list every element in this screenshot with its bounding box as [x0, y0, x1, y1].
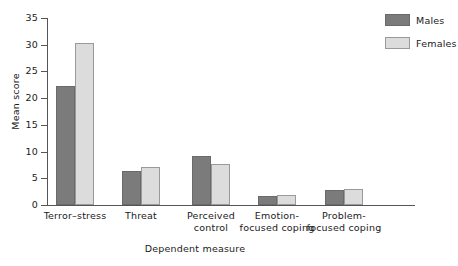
y-axis-tick-label: 5 — [0, 173, 38, 183]
legend-swatch-females-icon — [385, 37, 410, 49]
x-axis-category-label: Problem-focused coping — [299, 210, 389, 233]
bar-females — [141, 167, 160, 205]
bar-males — [122, 171, 141, 205]
y-axis-tick-label: 20 — [0, 93, 38, 103]
bar-females — [344, 189, 363, 205]
y-axis-tick-label: 15 — [0, 120, 38, 130]
legend-label-males: Males — [416, 15, 444, 26]
bar-males — [56, 86, 75, 205]
bar-males — [325, 190, 344, 205]
bar-females — [211, 164, 230, 205]
y-axis-tick-label: 0 — [0, 200, 38, 210]
plot-area — [47, 18, 415, 205]
legend-item-females: Females — [385, 37, 457, 49]
x-axis-title: Dependent measure — [120, 243, 270, 254]
y-axis-tick-label: 25 — [0, 66, 38, 76]
legend-label-females: Females — [416, 38, 457, 49]
legend-item-males: Males — [385, 14, 457, 26]
y-axis-tick-label: 30 — [0, 40, 38, 50]
legend-swatch-males-icon — [385, 14, 410, 26]
y-axis-tick — [41, 205, 47, 206]
y-axis-tick-label: 35 — [0, 13, 38, 23]
bar-males — [258, 196, 277, 205]
bar-males — [192, 156, 211, 205]
bar-chart-figure: Mean score 05101520253035 Terror–stressT… — [0, 0, 458, 266]
x-axis-line — [47, 205, 415, 206]
legend: Males Females — [385, 14, 457, 60]
bar-females — [75, 43, 94, 205]
y-axis-tick-label: 10 — [0, 147, 38, 157]
bar-females — [277, 195, 296, 205]
